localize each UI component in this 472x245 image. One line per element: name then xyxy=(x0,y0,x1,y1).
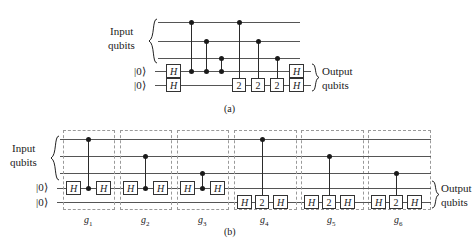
panel-b-caption: (b) xyxy=(224,226,236,237)
panel-b-block-label-g6: g6 xyxy=(394,214,403,228)
panel-b-g5-ctrl-line xyxy=(329,156,330,195)
panel-b-g4-gate-two: 2 xyxy=(255,195,269,209)
panel-a-control-dot-w2 xyxy=(204,39,209,44)
panel-a-control-dot-w3-b xyxy=(275,56,280,61)
panel-b-g1-ctrl-line xyxy=(88,139,89,188)
panel-a-control-dot-w1 xyxy=(189,20,194,25)
panel-b-ancilla-1-ket: |0⟩ xyxy=(36,181,48,194)
panel-a-control-dot-w2-b xyxy=(256,39,261,44)
panel-b-g5-gate-h-left: H xyxy=(304,195,319,209)
panel-b-g4-ctrl-line xyxy=(262,139,263,195)
panel-b-block-label-g5: g5 xyxy=(327,214,336,228)
panel-a-target-dot-w4-b xyxy=(204,69,209,74)
panel-a-wire-1 xyxy=(158,22,300,23)
panel-b-g3-gate-h-left: H xyxy=(180,181,195,195)
panel-b-g1-gate-h-left: H xyxy=(66,181,81,195)
panel-a-output-brace xyxy=(311,63,320,92)
panel-a-input-brace xyxy=(148,18,158,64)
panel-b-block-label-g3-sub: 3 xyxy=(203,220,207,228)
panel-a-target-dot-w4-c xyxy=(219,69,224,74)
panel-b-g6-control-dot xyxy=(394,171,399,176)
panel-b-g4-gate-h-right: H xyxy=(273,195,288,209)
panel-a-ctrl-line-2 xyxy=(206,41,207,71)
panel-b-ancilla-2-ket: |0⟩ xyxy=(36,196,48,209)
panel-a-ctrl-line-4 xyxy=(239,22,240,79)
panel-b-block-label-g2-sub: 2 xyxy=(146,220,150,228)
panel-b-g3-gate-h-right: H xyxy=(210,181,225,195)
panel-b-g6-ctrl-line xyxy=(396,173,397,195)
panel-b-wire-1-ext xyxy=(355,139,431,140)
panel-a-gate-two-1: 2 xyxy=(232,78,246,92)
panel-a-ctrl-line-6 xyxy=(277,58,278,79)
panel-b-g2-ctrl-line xyxy=(145,156,146,188)
panel-a-output-qubits-label-line1: Output xyxy=(322,65,353,77)
panel-a-output-qubits-label-line2: qubits xyxy=(322,79,349,91)
panel-a-wire-2 xyxy=(158,41,300,42)
panel-a-caption: (a) xyxy=(224,103,235,114)
panel-b-g2-target-dot xyxy=(143,186,148,191)
panel-a-control-dot-w3 xyxy=(219,56,224,61)
panel-b-g5-gate-h-right: H xyxy=(340,195,355,209)
panel-a-gate-h-ancilla2-last: H xyxy=(289,78,304,92)
panel-b-block-g3 xyxy=(177,130,229,210)
panel-b-g1-gate-h-right: H xyxy=(96,181,111,195)
panel-b-input-qubits-label-line1: Input xyxy=(12,142,35,154)
panel-b-block-label-g1-sub: 1 xyxy=(89,220,93,228)
panel-b-g2-control-dot xyxy=(143,154,148,159)
panel-b-block-label-g3: g3 xyxy=(198,214,207,228)
panel-b-block-label-g4: g4 xyxy=(260,214,269,228)
panel-a-ctrl-line-1 xyxy=(191,22,192,71)
panel-b-g4-gate-h-left: H xyxy=(237,195,252,209)
panel-a-ctrl-line-5 xyxy=(258,41,259,79)
panel-a-ancilla-2-ket: |0⟩ xyxy=(134,79,146,92)
panel-a-gate-two-3: 2 xyxy=(270,78,284,92)
panel-b-g3-target-dot xyxy=(200,186,205,191)
panel-b-g2-gate-h-right: H xyxy=(153,181,168,195)
panel-b-block-label-g1: g1 xyxy=(84,214,93,228)
panel-a-gate-h-ancilla1-last: H xyxy=(289,64,304,78)
panel-b-g3-control-dot xyxy=(200,171,205,176)
panel-b-g1-target-dot xyxy=(86,186,91,191)
panel-a-ancilla-1-ket: |0⟩ xyxy=(134,65,146,78)
panel-a-gate-two-2: 2 xyxy=(251,78,265,92)
panel-a-input-qubits-label-line2: qubits xyxy=(108,39,135,51)
panel-b-block-label-g6-sub: 6 xyxy=(399,220,403,228)
panel-b-g6-gate-h-left: H xyxy=(371,195,386,209)
panel-b-g1-control-dot xyxy=(86,137,91,142)
panel-b-output-qubits-label-line1: Output xyxy=(441,182,472,194)
panel-b-wire-4-ext xyxy=(355,188,431,189)
panel-b-g5-control-dot xyxy=(327,154,332,159)
panel-a-input-qubits-label-line1: Input xyxy=(110,25,133,37)
panel-b-g2-gate-h-left: H xyxy=(123,181,138,195)
panel-b-output-brace xyxy=(431,180,440,209)
panel-a-out-stub-2 xyxy=(304,85,311,86)
panel-b-block-label-g2: g2 xyxy=(141,214,150,228)
panel-a-gate-h-ancilla1-first: H xyxy=(166,64,181,78)
panel-b-input-qubits-label-line2: qubits xyxy=(10,156,37,168)
panel-b-g6-gate-two: 2 xyxy=(389,195,403,209)
panel-b-block-label-g5-sub: 5 xyxy=(332,220,336,228)
panel-a-gate-h-ancilla2-first: H xyxy=(166,78,181,92)
panel-a-out-stub-1 xyxy=(304,71,311,72)
panel-b-block-label-g4-sub: 4 xyxy=(265,220,269,228)
panel-b-output-qubits-label-line2: qubits xyxy=(441,196,468,208)
panel-b-input-brace xyxy=(50,135,60,181)
panel-a-target-dot-w4-a xyxy=(189,69,194,74)
panel-a-control-dot-w1-b xyxy=(237,20,242,25)
panel-b-g4-control-dot xyxy=(260,137,265,142)
panel-b-g5-gate-two: 2 xyxy=(322,195,336,209)
panel-b-g6-gate-h-right: H xyxy=(407,195,422,209)
panel-b-wire-2-ext xyxy=(355,156,431,157)
